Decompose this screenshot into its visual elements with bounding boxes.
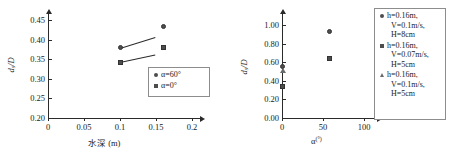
triangle-marker-icon: [378, 70, 386, 77]
left-x-ticklabel: 0.1: [105, 123, 135, 132]
right-y-ticklabel: 1.00: [250, 21, 279, 30]
right-legend-line: V=0.1m/s,: [387, 21, 425, 31]
right-legend: h=0.16m, V=0.1m/s, H=8cm h=0.16m, V=0.07…: [374, 8, 446, 120]
left-x-axis-title: 水深 (m): [88, 136, 120, 148]
right-y-ticklabel: 0.60: [250, 58, 279, 67]
left-x-tick: [48, 118, 49, 121]
right-legend-line: H=8cm: [387, 30, 425, 40]
left-data-point-square: [161, 45, 166, 50]
right-x-tick: [282, 118, 283, 121]
left-y-ticklabel: 0.35: [18, 55, 45, 64]
right-y-tick: [283, 99, 286, 100]
right-y-tick: [283, 44, 286, 45]
right-legend-line: h=0.16m,: [387, 11, 425, 21]
right-y-tick: [283, 118, 286, 119]
left-data-point-circle: [118, 45, 123, 50]
right-y-axis-arrow: [280, 9, 286, 14]
right-x-ticklabel: 100: [349, 123, 379, 132]
left-y-tick: [49, 118, 52, 119]
right-y-ticklabel: 0.00: [250, 114, 279, 123]
right-y-axis-title: ds/D: [239, 47, 249, 87]
circle-marker-icon: [152, 70, 160, 77]
left-series-circle-line: [120, 37, 155, 49]
right-legend-label: h=0.16m, V=0.1m/s, H=8cm: [386, 11, 425, 40]
right-legend-label: h=0.16m, V=0.1m/s, H=5cm: [386, 70, 425, 99]
left-y-tick: [49, 59, 52, 60]
right-legend-item: h=0.16m, V=0.07m/s, H=5cm: [378, 41, 442, 70]
left-x-ticklabel: 0.15: [141, 123, 171, 132]
square-marker-icon: [378, 41, 386, 48]
left-y-axis-title: ds/D: [6, 45, 16, 85]
square-marker-icon: [152, 81, 160, 88]
left-x-axis-arrow: [200, 116, 205, 122]
left-data-point-square: [118, 60, 123, 65]
left-y-tick: [49, 79, 52, 80]
left-legend-label: α=0°: [160, 81, 177, 91]
right-x-axis: [282, 118, 377, 119]
right-legend-line: h=0.16m,: [387, 41, 429, 51]
left-x-ticklabel: 0.05: [69, 123, 99, 132]
left-y-ticklabel: 0.20: [18, 114, 45, 123]
left-y-tick: [49, 20, 52, 21]
left-y-axis-arrow: [46, 9, 52, 14]
right-data-point-circle: [327, 29, 332, 34]
right-data-point-square: [280, 84, 285, 89]
right-x-ticklabel: 0: [267, 123, 297, 132]
figure-container: 0.20 0.25 0.30 0.35 0.40 0.45 0 0.05 0.1…: [0, 0, 452, 158]
right-x-axis-title-unit: (°): [315, 136, 321, 142]
right-x-tick: [323, 118, 324, 121]
left-x-axis: [48, 118, 200, 119]
left-y-axis: [48, 14, 49, 118]
left-x-tick: [120, 118, 121, 121]
right-data-point-square: [327, 56, 332, 61]
left-y-ticklabel: 0.30: [18, 75, 45, 84]
left-y-ticklabel: 0.45: [18, 16, 45, 25]
right-y-tick: [283, 25, 286, 26]
right-legend-label: h=0.16m, V=0.07m/s, H=5cm: [386, 41, 429, 70]
left-x-tick: [156, 118, 157, 121]
circle-marker-icon: [378, 11, 386, 18]
left-x-tick: [192, 118, 193, 121]
right-legend-item: h=0.16m, V=0.1m/s, H=5cm: [378, 70, 442, 99]
left-x-ticklabel: 0: [33, 123, 63, 132]
chart-left: 0.20 0.25 0.30 0.35 0.40 0.45 0 0.05 0.1…: [0, 0, 226, 158]
right-legend-line: V=0.07m/s,: [387, 50, 429, 60]
left-legend-label: α=60°: [160, 70, 181, 80]
left-legend-item: α=0°: [152, 81, 206, 91]
right-x-ticklabel: 50: [308, 123, 338, 132]
left-legend: α=60° α=0°: [148, 67, 210, 97]
left-data-point-circle: [161, 24, 166, 29]
left-y-tick: [49, 98, 52, 99]
left-x-ticklabel: 0.2: [177, 123, 207, 132]
left-y-tick: [49, 40, 52, 41]
right-x-axis-title: α(°): [311, 136, 322, 146]
right-legend-line: H=5cm: [387, 89, 425, 99]
right-x-tick: [364, 118, 365, 121]
left-y-ticklabel: 0.25: [18, 94, 45, 103]
right-legend-line: h=0.16m,: [387, 70, 425, 80]
right-y-ticklabel: 0.20: [250, 95, 279, 104]
right-legend-line: V=0.1m/s,: [387, 80, 425, 90]
left-y-axis-title-text: ds/D: [6, 57, 16, 72]
right-legend-item: h=0.16m, V=0.1m/s, H=8cm: [378, 11, 442, 40]
right-y-ticklabel: 0.80: [250, 40, 279, 49]
left-y-ticklabel: 0.40: [18, 36, 45, 45]
left-series-square-line: [120, 55, 156, 63]
chart-right: 0.00 0.20 0.40 0.60 0.80 1.00 0 50 100 α…: [226, 0, 452, 158]
right-data-point-triangle: [280, 68, 286, 73]
right-y-ticklabel: 0.40: [250, 77, 279, 86]
right-y-tick: [283, 62, 286, 63]
right-y-axis-title-text: ds/D: [239, 59, 249, 74]
right-legend-line: H=5cm: [387, 60, 429, 70]
left-legend-item: α=60°: [152, 70, 206, 80]
left-x-tick: [84, 118, 85, 121]
right-y-tick: [283, 81, 286, 82]
